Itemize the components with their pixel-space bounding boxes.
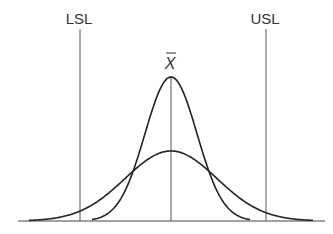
capability-diagram: LSL USL X [0,0,333,234]
lsl-label: LSL [66,10,93,27]
mean-label: X [164,55,177,72]
usl-label: USL [250,10,279,27]
